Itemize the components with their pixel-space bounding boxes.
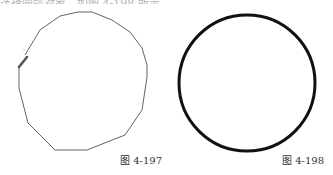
figure-right-circle <box>179 15 315 151</box>
figure-canvas <box>0 0 333 175</box>
figure-left-polyline <box>19 12 147 150</box>
endpoint-dot <box>23 49 24 50</box>
figure-caption-left: 图 4-197 <box>120 152 162 167</box>
figure-caption-right: 图 4-198 <box>282 152 324 167</box>
selection-grip-marker <box>19 57 27 67</box>
